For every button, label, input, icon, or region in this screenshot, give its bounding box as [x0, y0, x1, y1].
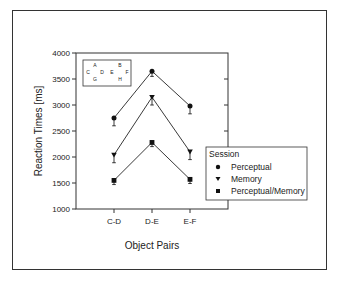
triangle-marker-icon	[187, 150, 193, 155]
legend-item: Perceptual/Memory	[231, 186, 305, 196]
legend-title: Session	[209, 149, 240, 159]
series-line	[114, 142, 190, 180]
triangle-marker-icon	[149, 95, 155, 100]
svg-text:E: E	[110, 69, 114, 75]
svg-text:D: D	[100, 69, 104, 75]
svg-text:G: G	[93, 76, 97, 82]
y-tick-label: 1500	[52, 179, 70, 188]
inset-diagram: A B C D E F G H	[83, 60, 131, 86]
x-tick-label: D-E	[145, 217, 159, 226]
x-axis: C-D D-E E-F	[107, 209, 197, 226]
x-tick-label: E-F	[184, 217, 197, 226]
svg-text:B: B	[118, 62, 122, 68]
y-tick-label: 2500	[52, 127, 70, 136]
y-axis: 1000 1500 2000 2500 3000 3500 4000	[52, 49, 228, 214]
svg-text:F: F	[125, 69, 128, 75]
legend: Session Perceptual Memory Perceptual/Mem…	[206, 147, 307, 200]
triangle-marker-icon	[111, 153, 117, 158]
svg-text:H: H	[118, 76, 122, 82]
svg-text:A: A	[93, 62, 97, 68]
y-tick-label: 4000	[52, 49, 70, 58]
circle-marker-icon	[188, 104, 193, 109]
legend-item: Perceptual	[231, 162, 272, 172]
square-marker-icon	[216, 189, 220, 193]
y-tick-label: 2000	[52, 153, 70, 162]
square-marker-icon	[112, 178, 117, 183]
x-axis-title: Object Pairs	[125, 240, 179, 251]
circle-marker-icon	[216, 165, 220, 169]
legend-item: Memory	[231, 174, 262, 184]
series-line	[114, 71, 190, 118]
circle-marker-icon	[112, 116, 117, 121]
y-axis-title: Reaction Times [ms]	[33, 85, 44, 176]
x-tick-label: C-D	[107, 217, 121, 226]
chart: 1000 1500 2000 2500 3000 3500 4000 C-D D…	[0, 0, 339, 281]
square-marker-icon	[150, 140, 155, 145]
y-tick-label: 1000	[52, 205, 70, 214]
y-tick-label: 3000	[52, 101, 70, 110]
circle-marker-icon	[150, 69, 155, 74]
square-marker-icon	[188, 177, 193, 182]
svg-text:C: C	[86, 69, 90, 75]
y-tick-label: 3500	[52, 75, 70, 84]
